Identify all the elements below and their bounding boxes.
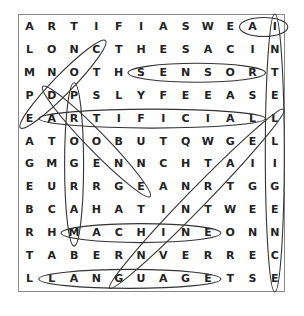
letter-cell[interactable]: E — [175, 245, 197, 267]
letter-cell[interactable]: R — [242, 62, 264, 84]
letter-cell[interactable]: B — [108, 131, 130, 153]
letter-cell[interactable]: C — [152, 153, 174, 175]
letter-cell[interactable]: A — [152, 268, 174, 290]
letter-cell[interactable]: G — [63, 153, 85, 175]
letter-cell[interactable]: S — [197, 62, 219, 84]
letter-cell[interactable]: N — [242, 222, 264, 244]
letter-cell[interactable]: A — [63, 199, 85, 221]
letter-cell[interactable]: A — [219, 153, 241, 175]
letter-cell[interactable]: N — [175, 199, 197, 221]
letter-cell[interactable]: E — [175, 85, 197, 107]
letter-cell[interactable]: H — [130, 39, 152, 61]
letter-cell[interactable]: T — [63, 16, 85, 38]
letter-cell[interactable]: E — [130, 176, 152, 198]
letter-cell[interactable]: L — [19, 39, 41, 61]
letter-cell[interactable]: S — [130, 62, 152, 84]
letter-cell[interactable]: W — [219, 199, 241, 221]
letter-cell[interactable]: H — [85, 199, 107, 221]
letter-cell[interactable]: H — [108, 62, 130, 84]
letter-cell[interactable]: E — [197, 268, 219, 290]
letter-cell[interactable]: V — [152, 245, 174, 267]
letter-cell[interactable]: U — [130, 131, 152, 153]
letter-cell[interactable]: N — [175, 222, 197, 244]
letter-cell[interactable]: N — [108, 153, 130, 175]
letter-cell[interactable]: N — [264, 222, 286, 244]
letter-cell[interactable]: E — [242, 131, 264, 153]
letter-cell[interactable]: A — [219, 85, 241, 107]
letter-cell[interactable]: N — [264, 39, 286, 61]
letter-cell[interactable]: R — [197, 176, 219, 198]
letter-cell[interactable]: I — [264, 16, 286, 38]
letter-cell[interactable]: A — [41, 245, 63, 267]
letter-cell[interactable]: E — [197, 85, 219, 107]
letter-cell[interactable]: M — [63, 222, 85, 244]
letter-cell[interactable]: I — [242, 153, 264, 175]
letter-cell[interactable]: N — [85, 268, 107, 290]
letter-cell[interactable]: Q — [175, 131, 197, 153]
letter-cell[interactable]: A — [152, 176, 174, 198]
letter-cell[interactable]: A — [63, 268, 85, 290]
letter-cell[interactable]: E — [242, 199, 264, 221]
letter-cell[interactable]: Y — [130, 85, 152, 107]
letter-cell[interactable]: G — [242, 176, 264, 198]
letter-cell[interactable]: E — [197, 222, 219, 244]
letter-cell[interactable]: O — [219, 62, 241, 84]
letter-cell[interactable]: O — [63, 131, 85, 153]
letter-cell[interactable]: E — [85, 245, 107, 267]
letter-cell[interactable]: T — [219, 268, 241, 290]
letter-cell[interactable]: N — [175, 176, 197, 198]
letter-cell[interactable]: R — [85, 176, 107, 198]
letter-cell[interactable]: O — [85, 131, 107, 153]
letter-cell[interactable]: A — [85, 222, 107, 244]
letter-cell[interactable]: H — [130, 222, 152, 244]
letter-cell[interactable]: A — [108, 199, 130, 221]
letter-cell[interactable]: R — [63, 176, 85, 198]
letter-cell[interactable]: E — [152, 62, 174, 84]
letter-cell[interactable]: I — [152, 108, 174, 130]
letter-cell[interactable]: R — [219, 245, 241, 267]
letter-cell[interactable]: T — [197, 199, 219, 221]
letter-cell[interactable]: D — [41, 85, 63, 107]
letter-cell[interactable]: R — [41, 16, 63, 38]
letter-cell[interactable]: G — [19, 153, 41, 175]
letter-cell[interactable]: I — [130, 16, 152, 38]
letter-cell[interactable]: T — [219, 176, 241, 198]
letter-cell[interactable]: E — [264, 268, 286, 290]
letter-cell[interactable]: T — [108, 39, 130, 61]
letter-cell[interactable]: T — [85, 108, 107, 130]
letter-cell[interactable]: U — [130, 268, 152, 290]
letter-cell[interactable]: F — [108, 16, 130, 38]
letter-cell[interactable]: E — [219, 16, 241, 38]
letter-cell[interactable]: E — [264, 199, 286, 221]
letter-cell[interactable]: N — [175, 62, 197, 84]
letter-cell[interactable]: R — [63, 108, 85, 130]
letter-cell[interactable]: W — [197, 16, 219, 38]
letter-cell[interactable]: C — [175, 108, 197, 130]
letter-cell[interactable]: O — [219, 222, 241, 244]
letter-cell[interactable]: O — [63, 62, 85, 84]
letter-cell[interactable]: A — [19, 131, 41, 153]
letter-cell[interactable]: M — [19, 62, 41, 84]
letter-cell[interactable]: S — [242, 268, 264, 290]
letter-cell[interactable]: I — [242, 39, 264, 61]
letter-cell[interactable]: G — [264, 176, 286, 198]
letter-cell[interactable]: F — [130, 108, 152, 130]
letter-cell[interactable]: F — [152, 85, 174, 107]
letter-cell[interactable]: A — [242, 16, 264, 38]
letter-cell[interactable]: M — [41, 153, 63, 175]
letter-cell[interactable]: A — [41, 108, 63, 130]
letter-cell[interactable]: R — [108, 245, 130, 267]
letter-cell[interactable]: I — [152, 222, 174, 244]
letter-cell[interactable]: E — [19, 176, 41, 198]
letter-cell[interactable]: A — [152, 16, 174, 38]
letter-cell[interactable]: A — [219, 108, 241, 130]
letter-cell[interactable]: T — [197, 153, 219, 175]
letter-cell[interactable]: L — [108, 85, 130, 107]
letter-cell[interactable]: H — [175, 153, 197, 175]
letter-cell[interactable]: I — [108, 108, 130, 130]
letter-cell[interactable]: C — [219, 39, 241, 61]
letter-cell[interactable]: T — [85, 62, 107, 84]
letter-cell[interactable]: E — [85, 153, 107, 175]
letter-cell[interactable]: E — [152, 39, 174, 61]
letter-cell[interactable]: B — [19, 199, 41, 221]
